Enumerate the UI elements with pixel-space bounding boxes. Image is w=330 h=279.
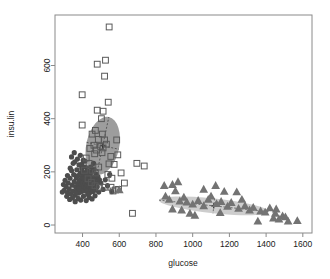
y-tick-label: 200 [42, 164, 52, 178]
x-tick-label: 800 [149, 239, 163, 249]
point-circle [76, 186, 81, 191]
x-tick-label: 1400 [257, 239, 276, 249]
point-circle [64, 194, 69, 199]
point-circle [71, 161, 76, 166]
point-circle [68, 166, 73, 171]
plot-canvas: 4006008001000120014001600 0200400600 glu… [0, 0, 330, 279]
y-tick-label: 400 [42, 111, 52, 125]
x-tick-label: 1600 [293, 239, 312, 249]
figure-background [0, 0, 330, 279]
point-circle [65, 173, 70, 178]
point-circle [72, 150, 77, 155]
point-circle [103, 177, 108, 182]
scatter-plot-figure: 4006008001000120014001600 0200400600 glu… [0, 0, 330, 279]
y-tick-label: 600 [42, 58, 52, 72]
point-circle [92, 193, 97, 198]
point-circle [107, 172, 112, 177]
x-tick-label: 1200 [220, 239, 239, 249]
y-axis-title: insu.lin [6, 111, 16, 138]
point-circle [69, 154, 74, 159]
x-tick-label: 1000 [183, 239, 202, 249]
point-circle [78, 153, 83, 158]
point-circle [85, 192, 90, 197]
point-circle [62, 178, 67, 183]
x-tick-label: 600 [112, 239, 126, 249]
x-tick-label: 400 [75, 239, 89, 249]
x-axis-title: glucose [168, 258, 198, 268]
point-circle [60, 189, 65, 194]
y-tick-label: 0 [42, 222, 52, 227]
